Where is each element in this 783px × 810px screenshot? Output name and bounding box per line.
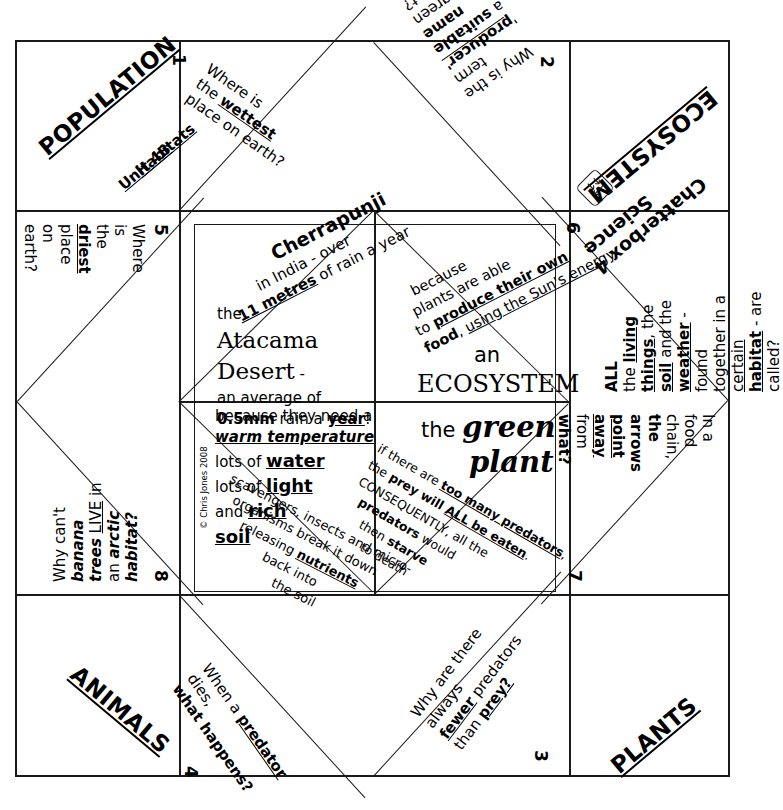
question-6-text: ALL the living things, the soil and the … bbox=[603, 268, 783, 392]
copyright-notice: © Chris Jones 2008 bbox=[199, 446, 209, 529]
question-8-text: Why can't banana trees LIVE in an arctic… bbox=[51, 456, 141, 582]
question-7-text: In a food chain, the arrows point away f… bbox=[555, 414, 717, 472]
question-5-text: Where is the driest place on earth? bbox=[21, 224, 147, 274]
question-5: 5 Where is the driest place on earth? bbox=[21, 214, 177, 398]
question-number-4: 4 bbox=[180, 766, 201, 778]
question-2: 2 Why is the term 'producer' a suitable … bbox=[375, 46, 567, 208]
question-2-text: Why is the term 'producer' a suitable na… bbox=[399, 0, 541, 103]
question-number-1: 1 bbox=[168, 54, 189, 66]
question-8: 8 Why can't banana trees LIVE in an arct… bbox=[21, 404, 177, 592]
grid-line-vertical-left bbox=[179, 42, 181, 775]
corner-label-ecosystem: ECOSYSTEM Chatterbox 4 Science bbox=[573, 46, 725, 208]
question-number-3: 3 bbox=[530, 750, 551, 762]
question-1: 1 Where is the wettest place on earth? bbox=[183, 46, 373, 208]
question-number-7: 7 bbox=[564, 570, 585, 582]
question-number-8: 8 bbox=[150, 570, 171, 582]
label-animals: ANIMALS bbox=[65, 660, 176, 759]
corner-label-population: POPULATION Unit 4B Habitats bbox=[37, 88, 177, 206]
question-number-5: 5 bbox=[150, 224, 171, 236]
question-3: 3 Why are there always fewer predators t… bbox=[375, 598, 567, 774]
question-1-text: Where is the wettest place on earth? bbox=[182, 60, 308, 171]
question-number-2: 2 bbox=[536, 56, 557, 68]
question-7: 7 In a food chain, the arrows point away… bbox=[571, 404, 727, 592]
corner-label-animals: ANIMALS bbox=[37, 598, 177, 774]
label-plants: PLANTS bbox=[605, 691, 703, 779]
corner-label-plants: PLANTS bbox=[573, 598, 725, 774]
answer-green-plant: the green plant bbox=[421, 410, 556, 481]
answer-ecosystem: an ECOSYSTEM bbox=[417, 342, 557, 400]
question-4-text: When a predator dies, what happens? bbox=[169, 660, 305, 810]
chatterbox-sheet: POPULATION Unit 4B Habitats ECOSYSTEM Ch… bbox=[15, 40, 730, 777]
